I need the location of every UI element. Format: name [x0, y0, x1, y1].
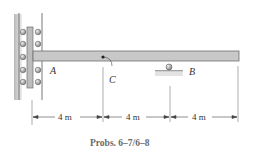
dimension-1: 4 m	[58, 112, 72, 122]
beam-diagram: A C B 4 m 4 m 4 m Probs. 6–7/6–8	[0, 0, 253, 155]
label-b: B	[189, 66, 195, 77]
figure-caption: Probs. 6–7/6–8	[90, 138, 150, 148]
label-c: C	[109, 74, 116, 85]
roller-support-b	[155, 64, 183, 76]
label-a: A	[49, 65, 57, 76]
beam	[33, 51, 239, 61]
dimension-2: 4 m	[126, 112, 140, 122]
dimension-3: 4 m	[192, 112, 206, 122]
